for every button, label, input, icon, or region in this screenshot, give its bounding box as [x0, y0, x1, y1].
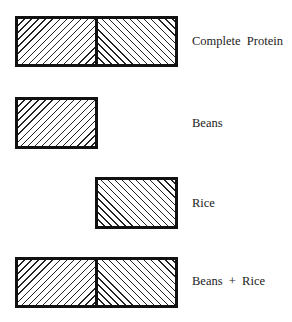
rice-block [95, 177, 178, 229]
beans-block [15, 97, 98, 149]
rice-half-hatch [95, 19, 175, 64]
rice-label: Rice [192, 196, 215, 211]
beans-half-hatch [18, 19, 95, 64]
rice-hatch [98, 180, 175, 226]
beans-plus-rice-block [15, 257, 178, 308]
complete-protein-label: Complete Protein [192, 34, 283, 49]
rice-half-hatch [95, 260, 175, 305]
beans-label: Beans [192, 116, 223, 131]
beans-plus-rice-label: Beans + Rice [192, 274, 265, 289]
complete-protein-block [15, 16, 178, 67]
beans-hatch [18, 100, 95, 146]
beans-half-hatch [18, 260, 95, 305]
